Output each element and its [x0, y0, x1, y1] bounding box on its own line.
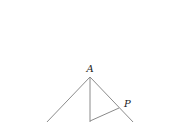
left-side-line	[46, 77, 90, 122]
segment-to-p	[90, 108, 119, 121]
geometry-diagram: A P	[0, 0, 176, 122]
label-p: P	[123, 98, 131, 109]
label-a: A	[86, 63, 94, 74]
